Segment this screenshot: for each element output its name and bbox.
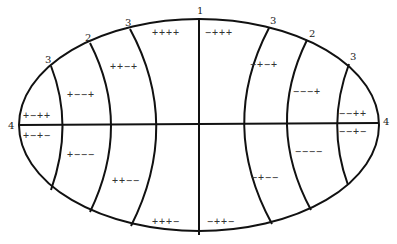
boundary-label-top-right-middle: 2: [309, 28, 315, 39]
boundary-label-left-end: 4: [8, 120, 14, 131]
region-sign-upper-left-2: +−−+: [67, 89, 95, 100]
right-middle-curve-2: [287, 40, 311, 210]
region-sign-lower-left-2: +−−−: [67, 149, 95, 160]
left-outer-curve-3: [51, 66, 63, 190]
right-inner-curve-3: [244, 28, 272, 224]
region-sign-lower-left-center: +++−: [152, 216, 180, 227]
region-sign-upper-right-2: −−−+: [293, 86, 321, 97]
boundary-label-top-left-middle: 2: [85, 32, 91, 43]
region-sign-upper-right-outer: −−++: [339, 108, 367, 119]
boundary-label-top-right-outer: 3: [350, 51, 356, 62]
left-middle-curve-2: [90, 43, 111, 212]
boundary-label-top-right-inner: 3: [270, 15, 276, 26]
region-sign-upper-left-3: ++−+: [110, 61, 138, 72]
right-outer-curve-3: [337, 64, 349, 185]
region-sign-lower-right-outer: −−+−: [339, 126, 367, 137]
region-sign-upper-left-center: ++++: [152, 27, 180, 38]
left-inner-curve-3: [130, 29, 156, 226]
boundary-label-top-left-outer: 3: [45, 54, 51, 65]
region-sign-lower-right-center: −++−: [207, 216, 235, 227]
region-sign-upper-right-3: −+−+: [250, 59, 278, 70]
region-signs: +−+++−+−+−−++−−−++−+++−−+++++++−−+++−++−…: [23, 27, 367, 227]
region-sign-lower-right-2: −−−−: [295, 146, 323, 157]
region-sign-upper-right-center: −+++: [205, 27, 233, 38]
boundary-label-top-left-inner: 3: [125, 17, 131, 28]
ellipse-diagram: 132343234 +−+++−+−+−−++−−−++−+++−−++++++…: [0, 0, 397, 244]
region-sign-upper-left-outer: +−++: [23, 110, 51, 121]
region-sign-lower-left-outer: +−+−: [23, 130, 51, 141]
boundary-label-top-center: 1: [197, 5, 203, 16]
region-sign-lower-right-3: −+−−: [251, 172, 279, 183]
boundary-label-right-end: 4: [383, 116, 389, 127]
region-sign-lower-left-3: ++−−: [112, 175, 140, 186]
